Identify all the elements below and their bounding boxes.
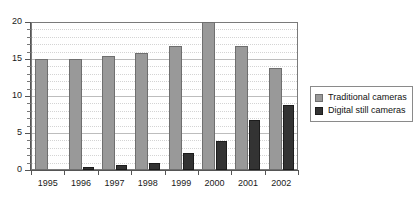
bar-group (135, 22, 160, 170)
bar-group (269, 22, 294, 170)
x-tick-label: 1995 (31, 179, 64, 188)
bar-group (69, 22, 94, 170)
bar-traditional (35, 59, 48, 170)
legend-label-digital: Digital still cameras (328, 106, 406, 115)
y-tick-minor (27, 81, 31, 82)
x-tick-label: 1996 (64, 179, 97, 188)
y-tick-minor (27, 89, 31, 90)
bar-group (169, 22, 194, 170)
x-tick-label: 1997 (98, 179, 131, 188)
y-tick-label: 5 (0, 128, 22, 137)
chart-legend: Traditional cameras Digital still camera… (310, 86, 413, 122)
y-tick-minor (27, 163, 31, 164)
x-tick (131, 170, 132, 175)
y-tick-major (25, 59, 31, 60)
y-tick-minor (27, 155, 31, 156)
legend-swatch-digital-icon (315, 107, 323, 115)
bar-digital (249, 120, 260, 170)
bar-group (102, 22, 127, 170)
y-tick-label: 0 (0, 165, 22, 174)
legend-item-traditional: Traditional cameras (315, 91, 407, 104)
bar-group (202, 22, 227, 170)
y-tick-minor (27, 66, 31, 67)
x-tick-label: 2002 (265, 179, 298, 188)
bar-traditional (269, 68, 282, 170)
x-tick (198, 170, 199, 175)
bar-traditional (169, 46, 182, 170)
x-tick-label: 2000 (198, 179, 231, 188)
y-tick-minor (27, 103, 31, 104)
bar-chart: 05101520 1995199619971998199920002001200… (0, 0, 415, 212)
bar-group (35, 22, 60, 170)
y-tick-major (25, 22, 31, 23)
legend-swatch-traditional-icon (315, 94, 323, 102)
y-tick-minor (27, 74, 31, 75)
y-tick-minor (27, 118, 31, 119)
y-tick-major (25, 96, 31, 97)
y-tick-major (25, 133, 31, 134)
y-tick-label: 10 (0, 91, 22, 100)
legend-label-traditional: Traditional cameras (328, 93, 407, 102)
x-tick (31, 170, 32, 175)
x-tick-label: 2001 (231, 179, 264, 188)
bar-digital (216, 141, 227, 170)
bar-group (235, 22, 260, 170)
x-tick (298, 170, 299, 175)
bar-traditional (135, 53, 148, 170)
x-tick (231, 170, 232, 175)
bar-traditional (69, 59, 82, 170)
y-tick-minor (27, 111, 31, 112)
y-tick-minor (27, 148, 31, 149)
bar-traditional (202, 22, 215, 170)
bar-digital (149, 163, 160, 170)
x-tick (265, 170, 266, 175)
bar-digital (183, 153, 194, 170)
x-tick (64, 170, 65, 175)
x-tick-label: 1998 (131, 179, 164, 188)
y-tick-minor (27, 140, 31, 141)
bars-layer (31, 22, 298, 170)
y-tick-label: 20 (0, 17, 22, 26)
x-tick (98, 170, 99, 175)
y-tick-minor (27, 44, 31, 45)
y-tick-label: 15 (0, 54, 22, 63)
bar-traditional (102, 56, 115, 170)
x-tick (165, 170, 166, 175)
x-tick-label: 1999 (165, 179, 198, 188)
y-tick-minor (27, 52, 31, 53)
legend-item-digital: Digital still cameras (315, 104, 407, 117)
bar-digital (283, 105, 294, 170)
y-tick-minor (27, 29, 31, 30)
y-tick-minor (27, 126, 31, 127)
bar-traditional (235, 46, 248, 170)
y-tick-minor (27, 37, 31, 38)
